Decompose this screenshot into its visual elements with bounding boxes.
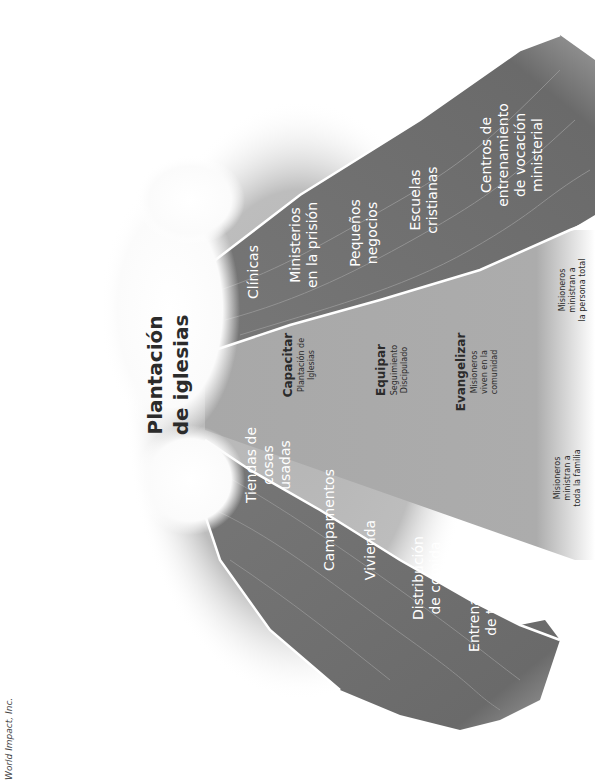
svg-text:Discipulado: Discipulado (400, 347, 409, 394)
upper-item-escuelas-cristianas: Escuelas cristianas (407, 166, 440, 233)
svg-text:usadas: usadas (277, 440, 293, 490)
svg-text:Misioneros: Misioneros (470, 351, 479, 394)
svg-text:Iglesias: Iglesias (307, 350, 316, 380)
svg-text:Pequeños: Pequeños (347, 199, 363, 267)
svg-text:Centros de: Centros de (478, 117, 494, 193)
upper-item-ministerios-prision: Ministerios en la prisión (287, 202, 320, 288)
svg-text:de comida: de comida (427, 541, 443, 614)
lower-item-vivienda: Vivienda (362, 520, 378, 580)
svg-text:ministran a: ministran a (568, 267, 577, 312)
svg-text:Clínicas: Clínicas (245, 245, 261, 299)
svg-text:Vivienda: Vivienda (362, 520, 378, 580)
credit-line: World Impact, Inc. (2, 660, 16, 780)
lower-item-entrenamiento-trabajo: Entrenamiento de trabajo (466, 548, 499, 652)
svg-text:de trabajo: de trabajo (483, 564, 499, 636)
svg-text:cosas: cosas (260, 445, 276, 484)
svg-text:Plantación: Plantación (143, 316, 167, 435)
stage-equipar: Equipar Seguimiento Discipulado (374, 344, 409, 396)
upper-item-clinicas: Clínicas (245, 245, 261, 299)
svg-text:Escuelas: Escuelas (407, 169, 423, 230)
svg-text:cristianas: cristianas (424, 166, 440, 233)
svg-text:en la prisión: en la prisión (304, 202, 320, 288)
svg-text:entrenamiento: entrenamiento (495, 103, 511, 207)
svg-text:de vocación: de vocación (512, 113, 528, 197)
svg-text:Evangelizar: Evangelizar (454, 333, 468, 412)
svg-text:Campamentos: Campamentos (321, 469, 337, 571)
svg-text:de iglesias: de iglesias (169, 315, 193, 436)
svg-text:Distribución: Distribución (410, 536, 426, 620)
lower-footnote: Misioneros ministran a toda la familia (553, 449, 582, 506)
svg-text:viven en la: viven en la (480, 350, 489, 394)
svg-text:Plantación de: Plantación de (296, 338, 306, 392)
cloud-puff-bottom (135, 425, 245, 535)
svg-text:Seguimiento: Seguimiento (390, 345, 399, 396)
lower-item-distribucion-comida: Distribución de comida (410, 536, 443, 620)
cloud-puff-top (135, 155, 245, 245)
svg-text:Misioneros: Misioneros (558, 269, 567, 312)
svg-text:ministran a: ministran a (563, 455, 572, 500)
diagram-canvas: Plantación de iglesias Clínicas Minister… (0, 0, 595, 784)
lower-item-campamentos: Campamentos (321, 469, 337, 571)
svg-text:comunidad: comunidad (490, 350, 499, 395)
credit-text: World Impact, Inc. (4, 698, 14, 780)
svg-text:Tiendas de: Tiendas de (243, 427, 259, 504)
svg-text:la persona total: la persona total (578, 259, 587, 322)
svg-text:Entrenamiento: Entrenamiento (466, 548, 482, 652)
svg-text:Ministerios: Ministerios (287, 207, 303, 283)
svg-text:Capacitar: Capacitar (281, 333, 295, 398)
svg-text:toda la familia: toda la familia (573, 449, 582, 506)
svg-text:Misioneros: Misioneros (553, 457, 562, 500)
church-planting-diagram: Plantación de iglesias Clínicas Minister… (0, 0, 595, 784)
svg-text:negocios: negocios (364, 202, 380, 264)
svg-text:Equipar: Equipar (374, 344, 388, 396)
svg-text:ministerial: ministerial (529, 118, 545, 192)
upper-item-centros-entrenamiento: Centros de entrenamiento de vocación min… (478, 103, 545, 207)
upper-item-pequenos-negocios: Pequeños negocios (347, 199, 380, 267)
